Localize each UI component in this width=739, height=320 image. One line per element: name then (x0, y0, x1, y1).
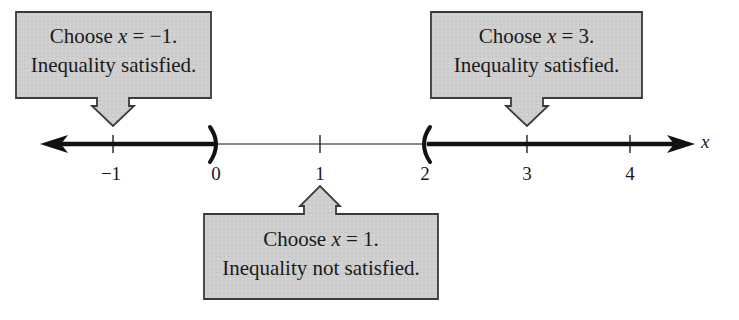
tick-label-0: 0 (201, 163, 231, 185)
callout-left-text: Choose x = −1. Inequality satisfied. (16, 22, 211, 80)
tick-label-2: 2 (410, 163, 440, 185)
callout-middle-line1: Choose x = 1. (204, 225, 438, 254)
axis-variable-label: x (701, 131, 709, 153)
tick-label-neg1: −1 (96, 163, 126, 185)
callout-middle-text: Choose x = 1. Inequality not satisfied. (204, 225, 438, 283)
tick-label-1: 1 (305, 163, 335, 185)
callout-right-line1: Choose x = 3. (431, 22, 642, 51)
callout-middle-line2: Inequality not satisfied. (204, 254, 438, 283)
callout-right-text: Choose x = 3. Inequality satisfied. (431, 22, 642, 80)
callout-left-line2: Inequality satisfied. (16, 51, 211, 80)
callout-right-line2: Inequality satisfied. (431, 51, 642, 80)
callout-left-line1: Choose x = −1. (16, 22, 211, 51)
tick-label-4: 4 (615, 163, 645, 185)
tick-label-3: 3 (512, 163, 542, 185)
